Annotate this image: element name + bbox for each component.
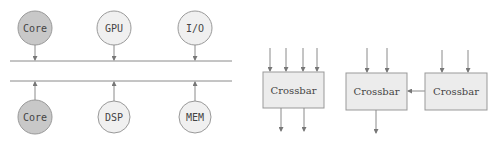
crossbar-1: Crossbar: [263, 48, 324, 131]
svg-text:Crossbar: Crossbar: [433, 86, 479, 97]
svg-text:Core: Core: [23, 23, 47, 34]
svg-text:DSP: DSP: [105, 112, 123, 123]
bus-node-bottom-core: Core: [18, 82, 52, 134]
bus-node-top-io: I/O: [178, 11, 212, 60]
bus-node-top-core: Core: [18, 11, 52, 60]
crossbar-3: Crossbar: [425, 50, 487, 110]
crossbar-2: Crossbar: [346, 48, 407, 133]
bus-node-top-gpu: GPU: [97, 11, 131, 60]
bus-node-bottom-mem: MEM: [179, 82, 211, 133]
svg-text:Crossbar: Crossbar: [271, 85, 317, 96]
svg-text:Crossbar: Crossbar: [354, 86, 400, 97]
svg-text:I/O: I/O: [186, 23, 204, 34]
svg-text:GPU: GPU: [105, 23, 123, 34]
svg-text:Core: Core: [23, 112, 47, 123]
bus-node-bottom-dsp: DSP: [98, 82, 130, 133]
diagram-canvas: Core GPU I/O Core DSP MEM Crossbar: [0, 0, 497, 146]
svg-text:MEM: MEM: [186, 112, 204, 123]
